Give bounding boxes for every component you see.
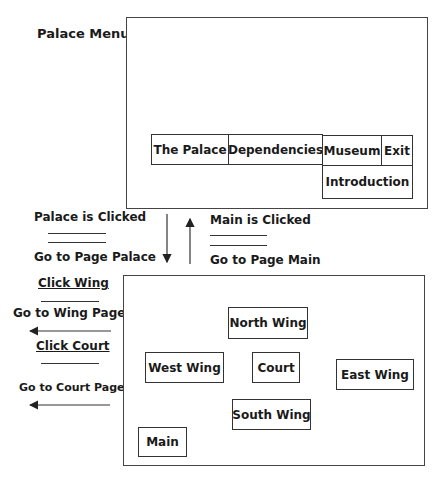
south-wing-button[interactable]: South Wing xyxy=(232,399,311,430)
main-button[interactable]: Main xyxy=(138,427,187,457)
west-wing-button[interactable]: West Wing xyxy=(145,352,224,383)
north-wing-button[interactable]: North Wing xyxy=(228,307,308,339)
east-wing-button[interactable]: East Wing xyxy=(336,359,414,390)
court-button[interactable]: Court xyxy=(252,352,300,383)
